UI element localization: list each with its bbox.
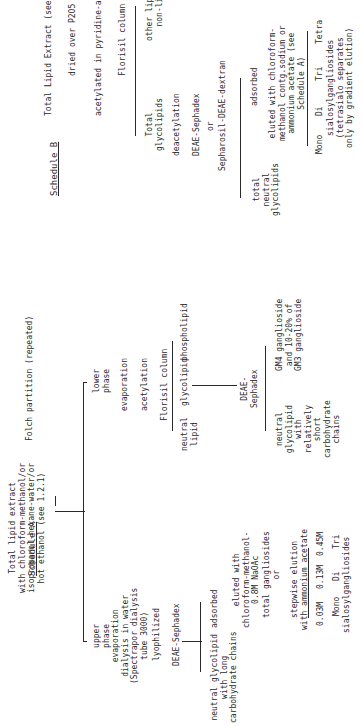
other-lipids: other lipids and non-lipids	[145, 0, 164, 41]
acetylation: acetylation	[140, 358, 150, 411]
connector	[265, 346, 266, 431]
connector	[192, 385, 237, 386]
schedule-b-eluted: eluted with chloroform- methanol contg.s…	[268, 25, 306, 141]
sialosylgangliosides: sialosylgangliosides	[342, 537, 352, 633]
mono: Mono	[332, 597, 342, 616]
sepharosil: Sepharosil-DEAE-dextran	[218, 60, 228, 171]
connector	[83, 382, 84, 642]
schedule-a-adsorbed: adsorbed	[210, 589, 220, 628]
schedule-a-florisil: Florisil column	[160, 349, 170, 421]
di: Di	[332, 571, 342, 581]
conc-045: 0.45M	[316, 532, 326, 556]
schedule-b-deae-sephadex: DEAE-Sephadex	[192, 93, 202, 156]
upper-phase-block: upper phase evaporation dialysis in wate…	[92, 588, 149, 684]
schedule-b-mono: Mono	[315, 135, 325, 154]
connector	[135, 6, 136, 136]
schedule-b-tri: Tri	[315, 67, 325, 81]
neutral-lipid: neutral lipid	[180, 417, 199, 451]
connector	[172, 341, 173, 431]
neutral-glycolipid-long: neutral glycolipid with long carbohydrat…	[210, 631, 239, 723]
total-glycolipids: Total glycolipids	[145, 98, 164, 151]
neutral-glycolipid-short: neutral glycolipid with relatively short…	[275, 400, 342, 458]
or: or	[206, 121, 216, 131]
lower-phase: lower phase	[92, 369, 111, 393]
total-gangliosides: total gangliosides or	[262, 531, 281, 618]
schedule-a-deae-sephadex-2: DEAE- Sephadex	[240, 369, 259, 408]
connector	[308, 548, 309, 618]
stepwise-elution: stepwise elution with ammonium acetate	[290, 529, 309, 630]
document-page: Schedule A Total lipid extract with chlo…	[0, 0, 363, 726]
total-neutral-glycolipids: total neutral glycolipids	[252, 163, 281, 216]
schedule-a-folch: Folch partition (repeated)	[25, 316, 35, 441]
evaporation: evaporation	[120, 358, 130, 411]
dried: dried over P2O5 vacuum desicator	[68, 0, 78, 76]
schedule-a-start: Total lipid extract with chloroform-meth…	[8, 463, 46, 593]
glycolipid: glycolipid	[180, 358, 190, 406]
conc-003: 0.03M	[316, 602, 326, 626]
schedule-b-tetra: Tetra	[315, 20, 325, 44]
connector	[240, 78, 241, 198]
connector	[55, 511, 85, 512]
schedule-b-start: Total Lipid Extract (see 1.2.1)	[44, 0, 54, 116]
deacetylation: deacetylation	[172, 93, 182, 156]
schedule-b-florisil: Florisil column	[118, 4, 128, 76]
connector	[200, 602, 201, 672]
schedule-a-eluted: eluted with chloroform-methanol- 0.8M Na…	[232, 532, 261, 628]
connector	[55, 496, 56, 506]
lyophilized: lyophilized	[152, 608, 162, 661]
conc-013: 0.13M	[316, 565, 326, 589]
schedule-a-deae-sephadex: DEAE-Sephadex	[172, 603, 182, 666]
connector	[182, 641, 202, 642]
schedule-b-adsorbed: adsorbed	[250, 67, 260, 106]
acetylated: acetylated in pyridine-acetic anhydride	[94, 0, 104, 116]
gm-gangliosides: GM4 ganglioside and 10-20% of GM3 gangli…	[275, 299, 304, 371]
connector	[83, 641, 87, 642]
schedule-b-di: Di	[315, 106, 325, 116]
connector	[83, 382, 87, 383]
tri: Tri	[332, 535, 342, 549]
phospholipid: phospholipid	[180, 303, 190, 361]
schedule-b-heading: Schedule B	[50, 142, 60, 196]
connector	[307, 31, 308, 146]
schedule-b-sialosyl: sialosylgangliosides (tetrasialo separat…	[326, 28, 355, 148]
